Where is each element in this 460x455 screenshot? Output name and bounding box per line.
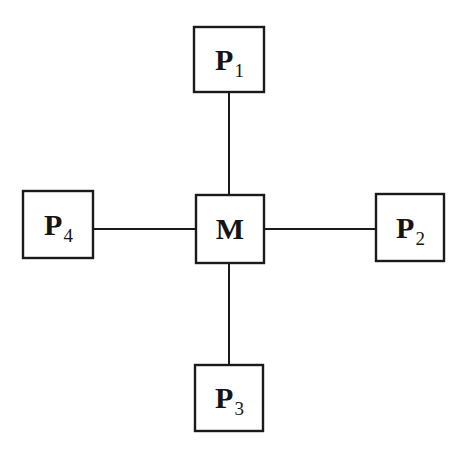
node-box-p4[interactable] [23,191,93,258]
star-topology-diagram: P1 M P2 P3 P4 [0,0,460,455]
node-box-p2[interactable] [376,194,444,261]
node-box-layer [23,27,444,431]
node-box-p3[interactable] [195,365,263,431]
diagram-canvas-svg [0,0,460,455]
node-box-m[interactable] [196,195,264,263]
node-box-p1[interactable] [194,27,264,92]
